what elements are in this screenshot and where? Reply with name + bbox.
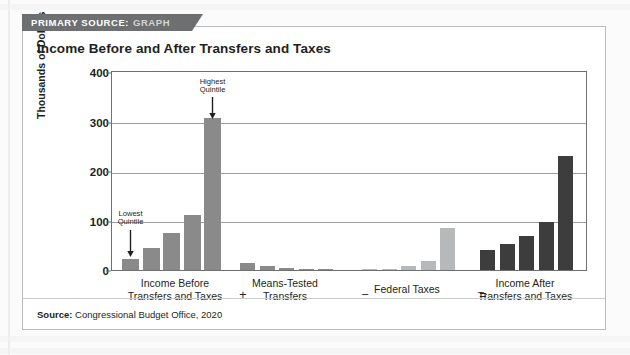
banner-kind: GRAPH: [133, 17, 170, 28]
chart-area: Thousands of Dollars 0100200300400 Lowes…: [37, 67, 593, 315]
page-left-rule: [8, 0, 10, 355]
bar-3-4: [421, 261, 436, 270]
bar-2-5: [318, 269, 333, 271]
bar-2-3: [279, 268, 294, 270]
plot-region: LowestQuintileHighestQuintile: [111, 71, 587, 271]
source-divider: [23, 298, 605, 299]
bar-3-5: [440, 228, 455, 270]
bar-2-2: [260, 266, 275, 270]
lowest-quintile-annotation: LowestQuintile: [105, 210, 157, 227]
page-texture-line: [0, 348, 630, 354]
highest-quintile-annotation: HighestQuintile: [187, 78, 239, 95]
operator-plus: +: [235, 288, 251, 302]
y-axis-tick-label: 400: [49, 67, 109, 79]
page-texture-line: [0, 336, 630, 342]
bar-1-4: [184, 215, 201, 270]
y-axis-label: Thousands of Dollars: [35, 105, 47, 119]
bar-2-1: [240, 263, 255, 270]
primary-source-banner: PRIMARY SOURCE: GRAPH: [22, 14, 192, 31]
page-texture-line: [0, 4, 630, 10]
bar-1-3: [163, 233, 180, 270]
highest-quintile-arrow-down-icon: [209, 97, 216, 123]
bar-1-5: [204, 118, 221, 270]
source-prefix: Source:: [37, 309, 72, 320]
page-title: Income Before and After Transfers and Ta…: [37, 41, 331, 56]
highest-quintile-annotation-line2: Quintile: [187, 86, 239, 94]
gridline: [112, 173, 586, 174]
y-axis-tick-label: 100: [49, 216, 109, 228]
bar-3-3: [401, 266, 416, 270]
bar-1-2: [143, 248, 160, 270]
banner-label: PRIMARY SOURCE:: [31, 17, 129, 28]
y-axis-tick-label: 0: [49, 265, 109, 277]
source-note: Source: Congressional Budget Office, 202…: [37, 309, 222, 320]
bar-4-3: [519, 236, 534, 270]
y-axis-tick-label: 300: [49, 117, 109, 129]
bar-4-2: [500, 244, 515, 270]
lowest-quintile-annotation-line2: Quintile: [105, 218, 157, 226]
operator-equals: =: [475, 288, 491, 302]
bar-2-4: [299, 269, 314, 271]
bar-3-1: [362, 269, 377, 271]
source-text: Congressional Budget Office, 2020: [75, 309, 222, 320]
bar-4-4: [539, 222, 554, 270]
bar-4-5: [558, 156, 573, 270]
y-axis-tick-label: 200: [49, 166, 109, 178]
gridline: [112, 123, 586, 124]
bar-4-1: [480, 250, 495, 270]
operator-minus: −: [357, 288, 373, 302]
bar-3-2: [382, 269, 397, 271]
primary-source-card: Income Before and After Transfers and Ta…: [22, 26, 606, 330]
lowest-quintile-arrow-down-icon: [127, 230, 134, 261]
